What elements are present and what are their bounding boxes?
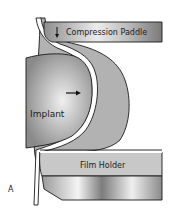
compression-paddle-label: Compression Paddle [66, 28, 147, 37]
implant-compression-diagram: Implant Compression Paddle Film Holder A [0, 0, 170, 216]
film-holder-base [42, 176, 162, 200]
panel-label: A [8, 185, 14, 194]
implant-label: Implant [30, 109, 65, 119]
film-holder-label: Film Holder [80, 161, 126, 170]
